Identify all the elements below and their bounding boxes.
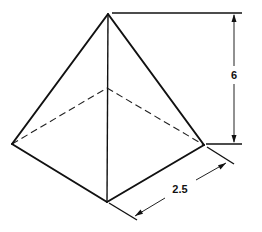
hidden-edge-left-back (12, 88, 107, 144)
edge-apex-front (107, 14, 108, 202)
arrow-down-icon (232, 135, 237, 143)
edge-front-right (107, 145, 204, 202)
arrow-down-left-icon (135, 210, 143, 217)
base-side-label: 2.5 (172, 183, 187, 195)
edge-apex-right (108, 14, 204, 145)
pyramid-diagram: 6 2.5 (0, 0, 262, 232)
hidden-edge-back-right (107, 88, 204, 145)
edge-apex-left (12, 14, 108, 144)
arrow-up-right-icon (218, 163, 226, 170)
edge-left-front (12, 144, 107, 202)
base-extension-right (207, 147, 234, 164)
arrow-up-icon (232, 14, 237, 22)
height-label: 6 (231, 69, 237, 81)
base-extension-front (109, 203, 137, 220)
